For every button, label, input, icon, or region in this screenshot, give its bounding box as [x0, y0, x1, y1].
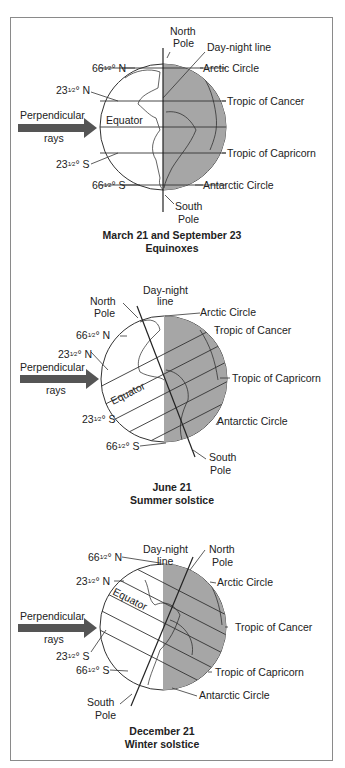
- rays-label: Perpendicular: [20, 109, 85, 121]
- tropic-cancer-label: Tropic of Cancer: [235, 621, 313, 633]
- svg-text:661⁄2° N: 661⁄2° N: [88, 551, 122, 563]
- north-pole-label: North: [90, 295, 116, 307]
- equinox-panel: North Pole Day-night line 661⁄2° N 231⁄2…: [18, 25, 316, 254]
- rays-label: Perpendicular: [20, 610, 85, 622]
- label-text: 66: [76, 664, 88, 676]
- caption-title: Summer solstice: [130, 494, 214, 506]
- svg-text:231⁄2° N: 231⁄2° N: [58, 348, 92, 360]
- label-text: Pole: [178, 213, 199, 225]
- label-text: 23: [58, 348, 70, 360]
- summer-solstice-panel: Day-night line North Pole Arctic Circle …: [20, 284, 321, 506]
- svg-text:231⁄2° S: 231⁄2° S: [82, 413, 116, 425]
- night-side: [163, 60, 233, 195]
- label-text: 66: [92, 62, 104, 74]
- label-text: 23: [76, 575, 88, 587]
- svg-text:231⁄2° S: 231⁄2° S: [56, 650, 90, 662]
- svg-text:231⁄2° S: 231⁄2° S: [56, 158, 90, 170]
- label-text: Pole: [173, 37, 194, 49]
- label-text: ° N: [95, 329, 110, 341]
- antarctic-circle-label: Antarctic Circle: [217, 415, 288, 427]
- tropic-cancer-label: Tropic of Cancer: [227, 95, 305, 107]
- caption-date: December 21: [129, 725, 195, 737]
- label-text: rays: [46, 384, 66, 396]
- label-text: line: [157, 555, 174, 567]
- caption-title: Equinoxes: [145, 242, 198, 254]
- caption-date: March 21 and September 23: [103, 229, 242, 241]
- earth-seasons-diagram: North Pole Day-night line 661⁄2° N 231⁄2…: [0, 0, 345, 768]
- label-text: Pole: [212, 556, 233, 568]
- south-pole-label: South: [175, 200, 203, 212]
- winter-solstice-panel: Day-night line North Pole 661⁄2° N 231⁄2…: [18, 543, 313, 750]
- equator-label: Equator: [106, 114, 143, 126]
- svg-text:661⁄2° N: 661⁄2° N: [76, 329, 110, 341]
- label-text: ° S: [75, 650, 89, 662]
- label-text: Pole: [210, 464, 231, 476]
- label-text: 23: [82, 413, 94, 425]
- label-text: ° N: [95, 575, 110, 587]
- label-text: ° S: [75, 158, 89, 170]
- label-text: Pole: [94, 307, 115, 319]
- label-text: rays: [44, 633, 64, 645]
- svg-text:231⁄2° N: 231⁄2° N: [56, 84, 90, 96]
- label-text: 66: [88, 551, 100, 563]
- svg-text:661⁄2° S: 661⁄2° S: [106, 440, 140, 452]
- south-pole-label: South: [87, 696, 115, 708]
- label-text: ° S: [125, 440, 139, 452]
- rays-label: Perpendicular: [20, 361, 85, 373]
- label-text: 23: [56, 84, 68, 96]
- day-night-label: Day-night line: [207, 41, 271, 53]
- label-text: ° S: [101, 413, 115, 425]
- day-night-label: Day-night: [143, 543, 188, 555]
- label-text: 66: [106, 440, 118, 452]
- label-text: 23: [56, 158, 68, 170]
- svg-text:231⁄2° N: 231⁄2° N: [76, 575, 110, 587]
- label-text: ° N: [77, 348, 92, 360]
- antarctic-circle-label: Antarctic Circle: [199, 689, 270, 701]
- south-pole-label: South: [209, 451, 237, 463]
- tropic-capricorn-label: Tropic of Capricorn: [227, 147, 316, 159]
- label-text: ° N: [111, 62, 126, 74]
- tropic-cancer-label: Tropic of Cancer: [214, 324, 292, 336]
- caption-title: Winter solstice: [125, 738, 200, 750]
- svg-text:661⁄2° S: 661⁄2° S: [92, 179, 126, 191]
- north-pole-label: North: [170, 25, 196, 37]
- tropic-capricorn-label: Tropic of Capricorn: [232, 372, 321, 384]
- label-text: ° N: [107, 551, 122, 563]
- arctic-circle-label: Arctic Circle: [200, 306, 256, 318]
- label-text: 66: [92, 179, 104, 191]
- arctic-circle-label: Arctic Circle: [217, 576, 273, 588]
- north-pole-label: North: [209, 543, 235, 555]
- label-text: 23: [56, 650, 68, 662]
- label-text: line: [157, 295, 174, 307]
- label-text: 66: [76, 329, 88, 341]
- label-text: ° S: [111, 179, 125, 191]
- label-text: rays: [44, 132, 64, 144]
- svg-text:661⁄2° S: 661⁄2° S: [76, 664, 110, 676]
- antarctic-circle-label: Antarctic Circle: [203, 179, 274, 191]
- tropic-capricorn-label: Tropic of Capricorn: [215, 666, 304, 678]
- label-text: ° S: [95, 664, 109, 676]
- arctic-circle-label: Arctic Circle: [203, 62, 259, 74]
- label-text: Pole: [95, 709, 116, 721]
- label-text: ° N: [75, 84, 90, 96]
- svg-text:661⁄2° N: 661⁄2° N: [92, 62, 126, 74]
- caption-date: June 21: [152, 481, 191, 493]
